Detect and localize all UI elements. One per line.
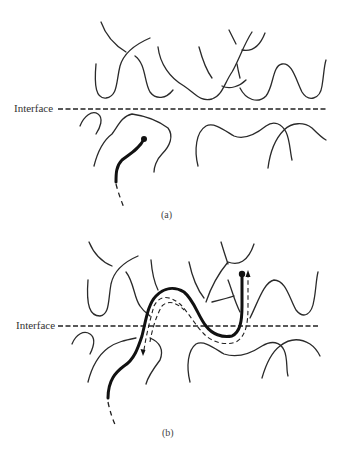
polymer-chain (94, 114, 171, 172)
polymer-chain (196, 123, 292, 166)
polymer-chain (151, 260, 158, 290)
polymer-chain (199, 47, 212, 78)
polymer-chain (72, 332, 94, 354)
polymer-chain (146, 338, 162, 384)
polymer-chain (95, 38, 150, 98)
polymer-chain (101, 22, 126, 52)
reptation-path-dashed-inner (150, 303, 184, 342)
polymer-chain (189, 262, 204, 298)
polymer-chain (206, 244, 254, 302)
polymer-chain (88, 256, 139, 316)
polymer-chain (212, 296, 234, 302)
polymer-chain (88, 338, 136, 382)
polymer-chain (237, 64, 240, 78)
polymer-chain (262, 340, 320, 378)
probe-chain-a (116, 139, 144, 182)
polymer-chain (228, 280, 240, 312)
chain-end-dot-a (141, 136, 147, 142)
polymer-chain (188, 343, 288, 382)
panel-b-drawing (58, 242, 320, 427)
polymer-chain (80, 113, 101, 134)
polymer-chain (242, 33, 265, 50)
polymer-chain (135, 56, 173, 97)
panel-a-drawing (58, 22, 327, 208)
polymer-chain (126, 272, 150, 316)
polymer-chain (221, 242, 228, 264)
chain-tail-dashed-a (116, 184, 124, 208)
polymer-chain (240, 60, 326, 100)
arrow-down-icon (141, 349, 146, 356)
probe-chain-b (108, 274, 242, 398)
diagram-drawing (0, 0, 341, 459)
chain-tail-dashed-b (108, 402, 116, 427)
polymer-chain (89, 242, 112, 266)
chain-end-dot-b (239, 271, 245, 277)
arrow-up-icon (246, 270, 251, 277)
polymer-chain (268, 124, 326, 168)
polymer-chain (229, 30, 236, 44)
polymer-chain (250, 272, 318, 318)
reptation-path-dashed (144, 276, 248, 350)
